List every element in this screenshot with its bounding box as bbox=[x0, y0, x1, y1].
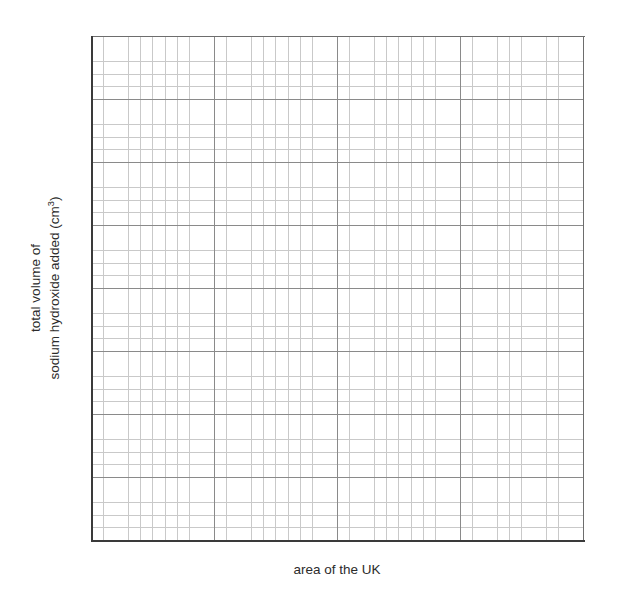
y-axis-label-superscript: 3 bbox=[46, 201, 56, 206]
y-axis-label-line-2-main: sodium hydroxide added (cm bbox=[48, 206, 63, 379]
y-axis-label: total volume of sodium hydroxide added (… bbox=[0, 0, 91, 576]
plot-frame-top-edge bbox=[91, 36, 585, 37]
y-axis-label-line-2: sodium hydroxide added (cm3) bbox=[46, 197, 65, 380]
y-axis-label-line-1: total volume of bbox=[27, 197, 46, 380]
plot-frame-left-axis bbox=[91, 36, 93, 542]
plot-area-grid[interactable] bbox=[91, 36, 583, 540]
plot-frame-bottom-axis bbox=[91, 540, 585, 542]
y-axis-label-text: total volume of sodium hydroxide added (… bbox=[27, 197, 65, 380]
x-axis-label: area of the UK bbox=[91, 562, 583, 577]
plot-frame-right-edge bbox=[583, 36, 584, 542]
graph-figure: total volume of sodium hydroxide added (… bbox=[0, 0, 620, 606]
y-axis-label-line-2-end: ) bbox=[48, 197, 63, 202]
